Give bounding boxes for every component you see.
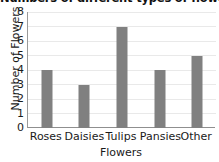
bar bbox=[79, 85, 90, 129]
chart-title: Numbers of different types of flowers bbox=[0, 0, 219, 5]
bar-slot bbox=[103, 12, 141, 128]
plot-area bbox=[27, 12, 215, 128]
x-axis-label: Flowers bbox=[27, 146, 215, 159]
bar-slot bbox=[66, 12, 104, 128]
bars-layer bbox=[28, 12, 216, 128]
bar-slot bbox=[178, 12, 216, 128]
y-tick-label: 0 bbox=[2, 122, 24, 133]
bar bbox=[154, 70, 165, 128]
x-tick-label: Tulips bbox=[102, 131, 140, 143]
bar bbox=[41, 70, 52, 128]
bar-chart-figure: Numbers of different types of flowers 01… bbox=[0, 0, 219, 162]
bar bbox=[116, 27, 127, 129]
bar bbox=[192, 56, 203, 129]
x-tick-label: Daisies bbox=[65, 131, 103, 143]
y-axis-label: Number of Flowers bbox=[9, 0, 22, 119]
x-axis-tick-labels: RosesDaisiesTulipsPansiesOther bbox=[27, 131, 215, 145]
bar-slot bbox=[28, 12, 66, 128]
x-tick-label: Other bbox=[177, 131, 215, 143]
bar-slot bbox=[141, 12, 179, 128]
x-tick-label: Roses bbox=[27, 131, 65, 143]
x-tick-label: Pansies bbox=[140, 131, 178, 143]
